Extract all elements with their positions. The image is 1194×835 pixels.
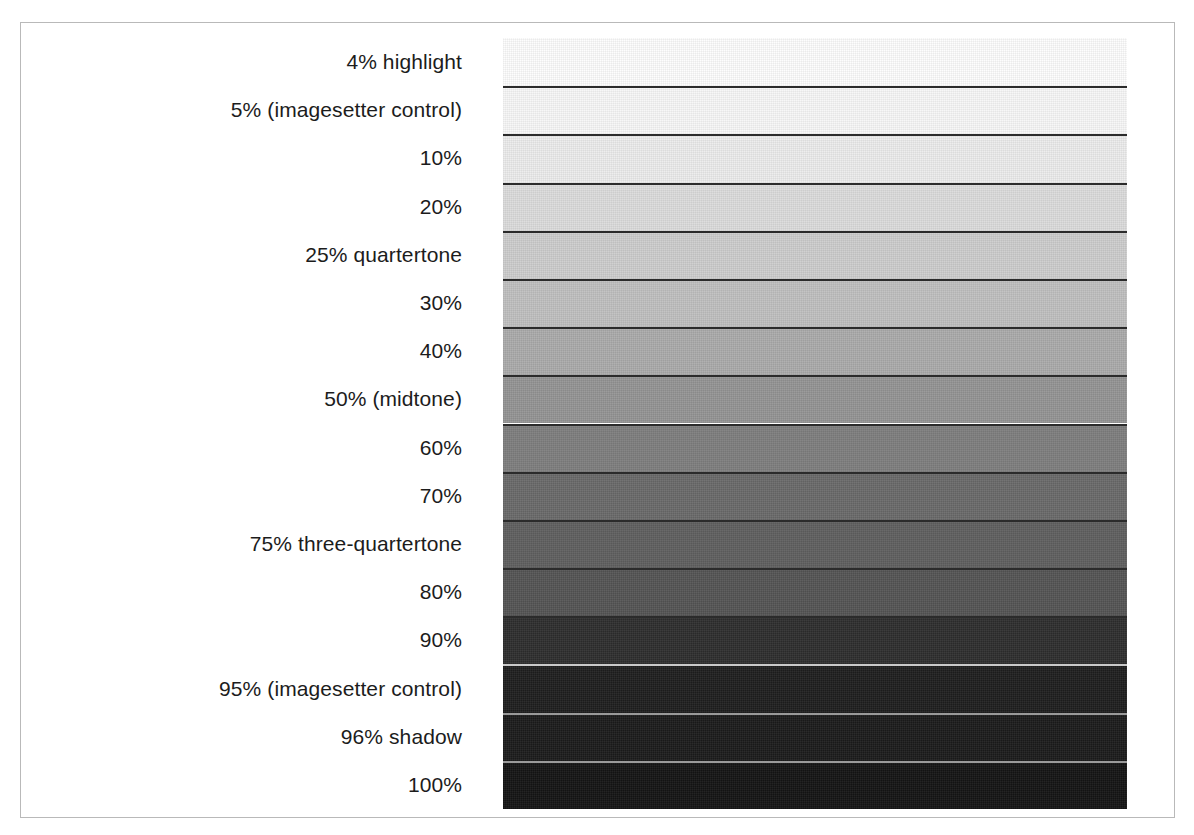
tone-band bbox=[503, 231, 1127, 279]
tone-band-label: 70% bbox=[420, 485, 462, 506]
tone-band bbox=[503, 327, 1127, 375]
tone-band bbox=[503, 86, 1127, 134]
tone-band bbox=[503, 616, 1127, 664]
tone-band-label: 4% highlight bbox=[346, 51, 462, 72]
tone-band bbox=[503, 279, 1127, 327]
page-root: 4% highlight5% (imagesetter control)10%2… bbox=[0, 0, 1194, 835]
tone-band-label: 10% bbox=[420, 147, 462, 168]
tone-band-label: 75% three-quartertone bbox=[250, 533, 462, 554]
tone-band bbox=[503, 424, 1127, 472]
tone-band bbox=[503, 664, 1127, 712]
tone-scale-strip bbox=[503, 38, 1127, 809]
tone-band-label: 80% bbox=[420, 581, 462, 602]
tone-band-label: 60% bbox=[420, 437, 462, 458]
tone-band-label: 96% shadow bbox=[341, 726, 462, 747]
tone-band-label: 90% bbox=[420, 629, 462, 650]
tone-band bbox=[503, 375, 1127, 423]
tone-band-label: 100% bbox=[408, 774, 462, 795]
tone-band-label: 25% quartertone bbox=[305, 244, 462, 265]
tone-band bbox=[503, 134, 1127, 182]
tone-band bbox=[503, 38, 1127, 86]
tone-band bbox=[503, 472, 1127, 520]
tone-band-label: 50% (midtone) bbox=[324, 388, 462, 409]
tone-band-label: 40% bbox=[420, 340, 462, 361]
tone-band-label: 95% (imagesetter control) bbox=[219, 678, 462, 699]
tone-band bbox=[503, 761, 1127, 809]
tone-band-label: 5% (imagesetter control) bbox=[231, 99, 462, 120]
tone-band bbox=[503, 568, 1127, 616]
tone-band bbox=[503, 520, 1127, 568]
tone-band-label: 20% bbox=[420, 196, 462, 217]
tone-band bbox=[503, 713, 1127, 761]
tone-band bbox=[503, 183, 1127, 231]
tone-band-label: 30% bbox=[420, 292, 462, 313]
